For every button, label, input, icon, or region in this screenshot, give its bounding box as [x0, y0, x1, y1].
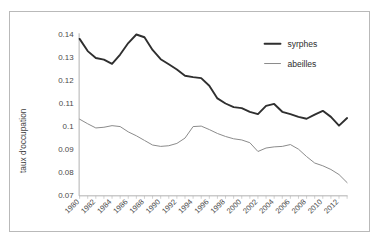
- y-tick-label: 0.12: [58, 76, 74, 85]
- x-tick-label: 2008: [290, 197, 308, 215]
- chart-figure: taux d'occupation 0.140.130.120.110.10.0…: [9, 11, 370, 232]
- y-tick-label: 0.14: [58, 30, 74, 39]
- x-tick-label: 1988: [128, 197, 146, 215]
- y-axis-title-group: taux d'occupation: [18, 108, 28, 173]
- occupancy-rate-line-chart: taux d'occupation 0.140.130.120.110.10.0…: [10, 12, 369, 231]
- legend-label-syrphes: syrphes: [287, 39, 317, 49]
- x-tick-label: 1998: [209, 197, 227, 215]
- x-tick-label: 1996: [192, 197, 210, 215]
- x-tick-label: 2002: [241, 197, 259, 215]
- x-tick-label: 2012: [322, 197, 340, 215]
- x-tick-label: 2010: [306, 197, 324, 215]
- x-tick-label: 2004: [257, 197, 275, 215]
- x-tick-label: 1992: [160, 197, 178, 215]
- y-tick-label: 0.09: [58, 145, 74, 154]
- x-tick-label: 1982: [79, 197, 97, 215]
- x-tick-label: 2006: [274, 197, 292, 215]
- y-axis-title: taux d'occupation: [18, 108, 28, 173]
- x-tick-label: 2000: [225, 197, 243, 215]
- chart-legend: syrphesabeilles: [265, 39, 318, 69]
- y-tick-label: 0.1: [63, 122, 75, 131]
- x-tick-label: 1994: [176, 197, 194, 215]
- y-axis-tick-labels: 0.140.130.120.110.10.090.080.07: [58, 30, 74, 201]
- y-tick-label: 0.08: [58, 168, 74, 177]
- x-tick-label: 1990: [144, 197, 162, 215]
- y-tick-label: 0.13: [58, 53, 74, 62]
- x-axis-tick-labels: 1980198219841986198819901992199419961998…: [63, 197, 341, 215]
- series-line-abeilles: [80, 119, 348, 182]
- x-tick-label: 1984: [95, 197, 113, 215]
- legend-label-abeilles: abeilles: [287, 59, 316, 69]
- y-tick-label: 0.11: [59, 99, 74, 108]
- series-lines: [80, 34, 348, 182]
- x-tick-label: 1986: [111, 197, 129, 215]
